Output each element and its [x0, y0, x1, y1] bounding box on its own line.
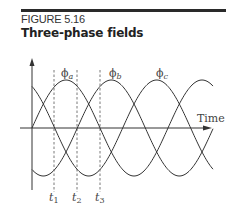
- three-phase-diagram: ϕa ϕb ϕc Time t1 t2 t3: [0, 0, 236, 217]
- phase-b-label: ϕb: [109, 67, 122, 81]
- y-axis-arrow-icon: [30, 58, 35, 66]
- marker-label-t2: t2: [72, 191, 82, 205]
- marker-label-t1: t1: [49, 191, 59, 205]
- time-axis-arrow-icon: [203, 126, 212, 131]
- phase-a-label: ϕa: [61, 67, 74, 81]
- marker-label-t3: t3: [95, 191, 105, 205]
- phase-c-label: ϕc: [156, 67, 169, 81]
- time-axis-label: Time: [197, 112, 225, 125]
